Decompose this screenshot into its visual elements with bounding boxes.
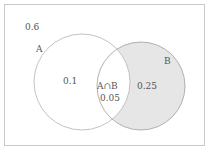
set-b-only-value: 0.25 xyxy=(137,82,157,91)
intersection-value: 0.05 xyxy=(100,94,120,103)
set-a-only-value: 0.1 xyxy=(63,77,77,86)
set-b-label: B xyxy=(164,57,171,66)
set-a-label: A xyxy=(36,45,43,54)
universe-value: 0.6 xyxy=(25,23,39,32)
intersection-label: A∩B xyxy=(97,82,118,91)
